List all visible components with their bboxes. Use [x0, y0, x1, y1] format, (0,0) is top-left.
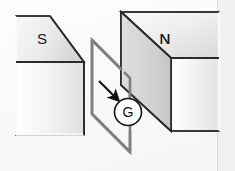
induction-figure: S N N	[0, 0, 235, 171]
south-pole-label: S	[37, 30, 47, 47]
north-magnet-side-face	[171, 58, 219, 131]
figure-canvas: S N N	[0, 0, 235, 171]
north-pole-label-overlay: N	[160, 30, 171, 47]
south-magnet-front-face	[16, 62, 84, 135]
galvanometer: G	[115, 99, 142, 126]
galvanometer-label: G	[123, 104, 134, 120]
